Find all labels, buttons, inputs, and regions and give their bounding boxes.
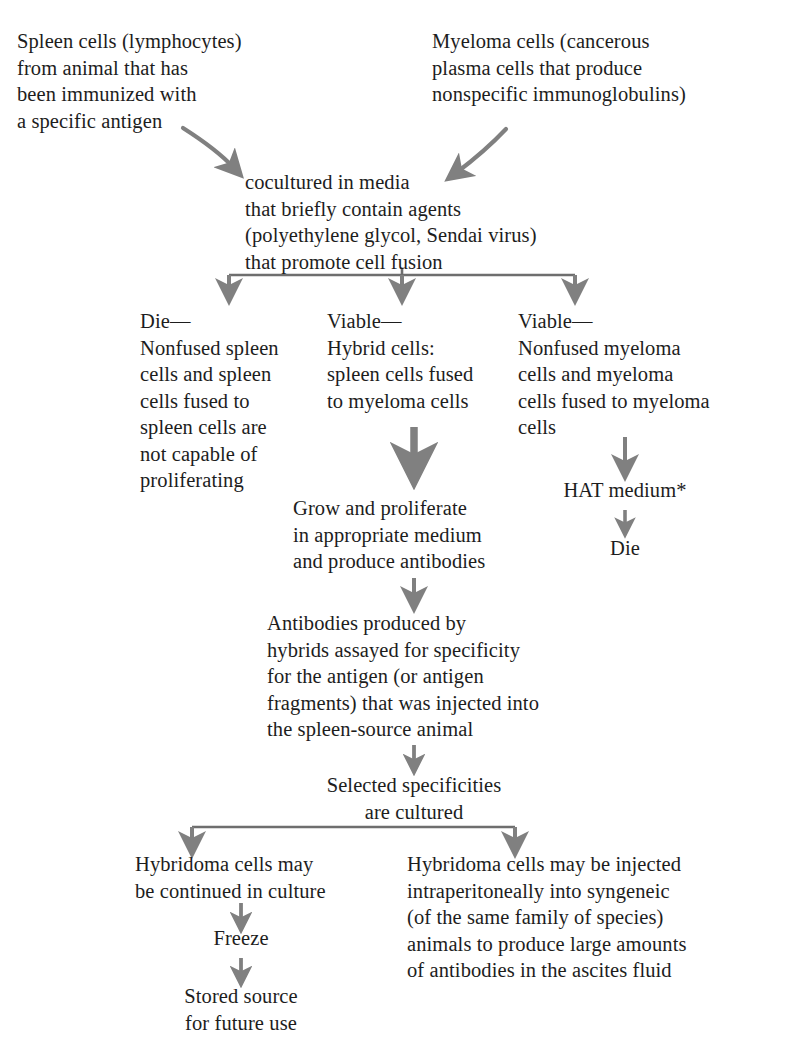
node-branch-right-myeloma: Viable— Nonfused myeloma cells and myelo… (518, 308, 768, 441)
node-grow-proliferate: Grow and proliferate in appropriate medi… (293, 495, 593, 575)
node-branch-left-die: Die— Nonfused spleen cells and spleen ce… (140, 308, 335, 494)
node-bottom-left-culture: Hybridoma cells may be continued in cult… (135, 851, 385, 904)
node-myeloma-cells: Myeloma cells (cancerous plasma cells th… (432, 28, 782, 108)
node-branch-center-hybrid: Viable— Hybrid cells: spleen cells fused… (327, 308, 527, 414)
curved-arrow-spleen-to-coculture (183, 128, 234, 168)
node-freeze: Freeze (181, 925, 301, 952)
node-antibodies-assayed: Antibodies produced by hybrids assayed f… (267, 610, 617, 743)
node-cocultured: cocultured in media that briefly contain… (245, 169, 665, 275)
node-selected-specificities: Selected specificities are cultured (289, 772, 539, 825)
curved-arrow-myeloma-to-coculture (456, 129, 506, 173)
node-spleen-cells: Spleen cells (lymphocytes) from animal t… (17, 28, 377, 134)
node-bottom-right-ascites: Hybridoma cells may be injected intraper… (407, 851, 782, 984)
flowchart-page: Spleen cells (lymphocytes) from animal t… (0, 0, 785, 1057)
two-way-split-connector (192, 827, 515, 845)
node-stored-source: Stored source for future use (161, 983, 321, 1036)
